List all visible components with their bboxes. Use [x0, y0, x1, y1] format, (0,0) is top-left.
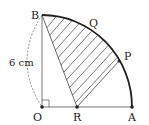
label-P: P	[124, 50, 132, 63]
label-O: O	[33, 111, 42, 124]
geometry-figure: B Q P 6 cm O R A	[0, 0, 149, 125]
label-Q: Q	[89, 17, 98, 30]
point-R	[75, 105, 79, 109]
point-O	[40, 105, 44, 109]
label-A: A	[127, 111, 137, 124]
point-P	[118, 60, 121, 63]
label-R: R	[73, 111, 82, 124]
label-length: 6 cm	[9, 57, 34, 68]
label-B: B	[31, 9, 39, 22]
segment-BR	[42, 15, 77, 107]
point-A	[130, 105, 134, 109]
